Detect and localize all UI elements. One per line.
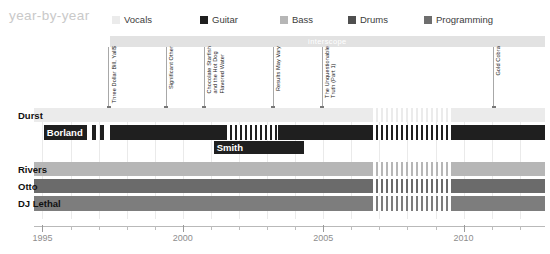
member-activity-bar-striped (371, 196, 452, 211)
x-tick-minor (492, 226, 493, 230)
legend-item-vocals[interactable]: Vocals (112, 10, 152, 24)
row-label-borland: Borland (47, 127, 83, 138)
table-row[interactable] (34, 162, 545, 176)
member-activity-bar-striped (225, 125, 278, 140)
album-marker-line (204, 47, 205, 108)
album-release-label: Significant Other (168, 46, 174, 89)
table-row[interactable] (34, 179, 545, 193)
album-release-label: The Unquestionable Truth (Part 1) (324, 46, 337, 98)
row-label-rivers: Rivers (18, 164, 47, 175)
album-marker-line (322, 47, 323, 108)
x-tick-major (183, 225, 184, 232)
x-tick-minor (295, 226, 296, 230)
member-activity-bar (34, 108, 371, 122)
legend-item-drums[interactable]: Drums (348, 10, 388, 24)
row-label-durst: Durst (18, 110, 43, 121)
legend-swatch-icon (200, 16, 208, 24)
x-tick-minor (99, 226, 100, 230)
x-axis-year-label: 2010 (454, 233, 474, 243)
table-row[interactable] (34, 196, 545, 211)
table-row[interactable] (34, 108, 545, 122)
legend-swatch-icon (424, 16, 432, 24)
member-activity-bar (452, 179, 545, 193)
member-activity-bar (452, 108, 545, 122)
x-tick-minor (211, 226, 212, 230)
member-activity-bar-striped (371, 179, 452, 193)
plot-area: DurstBorlandSmithRiversOttoDJ Lethal (34, 108, 545, 219)
legend-label: Drums (360, 14, 388, 25)
member-activity-bar-striped (371, 108, 452, 122)
member-activity-bar (34, 196, 371, 211)
x-tick-major (323, 225, 324, 232)
year-by-year-chart: year-by-year VocalsGuitarBassDrumsProgra… (0, 0, 550, 254)
album-marker-line (493, 47, 494, 108)
chart-header: year-by-year VocalsGuitarBassDrumsProgra… (0, 0, 550, 28)
x-tick-major (42, 225, 43, 232)
member-activity-bar (34, 179, 371, 193)
legend-label: Vocals (124, 14, 152, 25)
row-label-otto: Otto (18, 181, 38, 192)
legend-item-bass[interactable]: Bass (280, 10, 313, 24)
album-marker-line (273, 47, 274, 108)
x-tick-minor (267, 226, 268, 230)
album-release-label: Chocolate Starfish and the Hot Dog Flavo… (206, 46, 225, 94)
table-row[interactable] (34, 141, 545, 154)
legend-swatch-icon (348, 16, 356, 24)
x-axis-year-label: 2000 (173, 233, 193, 243)
x-axis-year-label: 1995 (32, 233, 52, 243)
x-tick-minor (351, 226, 352, 230)
member-activity-bar (110, 125, 225, 140)
album-release-label: Results May Vary (275, 46, 281, 91)
member-activity-bar (34, 162, 371, 176)
album-release-label: Gold Cobra (495, 46, 501, 76)
member-activity-bar (92, 125, 96, 140)
legend-swatch-icon (280, 16, 288, 24)
x-tick-minor (239, 226, 240, 230)
member-activity-bar-striped (371, 125, 452, 140)
member-activity-bar (100, 125, 104, 140)
album-marker-line (108, 47, 109, 108)
legend-item-programming[interactable]: Programming (424, 10, 493, 24)
album-marker-line (166, 47, 167, 108)
x-tick-minor (155, 226, 156, 230)
x-tick-minor (436, 226, 437, 230)
legend-swatch-icon (112, 16, 120, 24)
x-tick-minor (71, 226, 72, 230)
x-axis-line (34, 226, 545, 227)
row-label-dj-lethal: DJ Lethal (18, 198, 61, 209)
legend-label: Programming (436, 14, 493, 25)
legend-label: Bass (292, 14, 313, 25)
x-tick-minor (407, 226, 408, 230)
x-tick-minor (379, 226, 380, 230)
x-tick-minor (520, 226, 521, 230)
x-axis-year-label: 2005 (313, 233, 333, 243)
x-tick-major (464, 225, 465, 232)
member-activity-bar (452, 125, 545, 140)
member-activity-bar (452, 162, 545, 176)
member-activity-bar (452, 196, 545, 211)
member-activity-bar (278, 125, 371, 140)
row-label-smith: Smith (217, 142, 243, 153)
x-tick-minor (127, 226, 128, 230)
album-release-label: Three Dollar Bill, Yall$ (111, 46, 117, 103)
member-activity-bar-striped (371, 162, 452, 176)
legend-label: Guitar (212, 14, 238, 25)
legend-item-guitar[interactable]: Guitar (200, 10, 238, 24)
page-title: year-by-year (9, 8, 90, 23)
table-row[interactable] (34, 125, 545, 140)
